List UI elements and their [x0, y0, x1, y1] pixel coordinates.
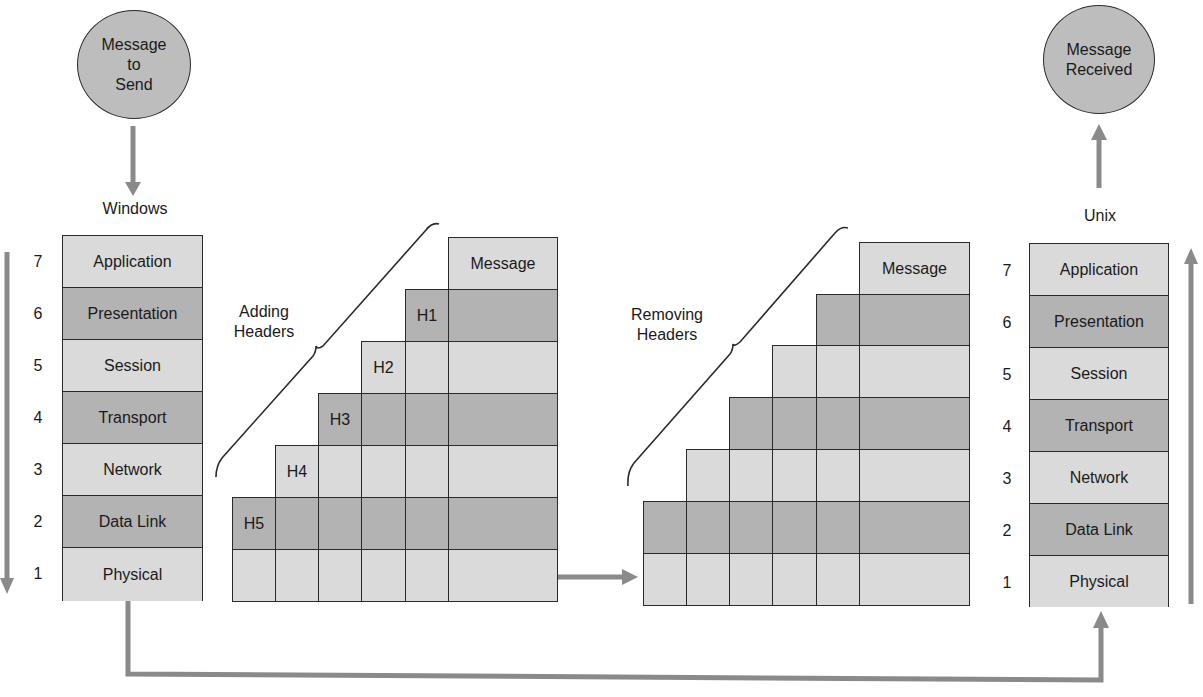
- grid-cell: [772, 397, 817, 450]
- grid-cell: [275, 497, 319, 550]
- adding-headers-label: Adding Headers: [214, 302, 314, 342]
- sender-layer-transport: Transport: [63, 392, 202, 444]
- grid-cell: [405, 497, 449, 550]
- grid-cell: [448, 341, 558, 394]
- sender-os-label: Windows: [80, 200, 190, 218]
- message-block: Message: [448, 237, 558, 290]
- message-received-circle: Message Received: [1043, 5, 1155, 114]
- sender-layer-physical: Physical: [63, 548, 202, 601]
- grid-cell: [772, 501, 817, 554]
- grid-cell: [729, 553, 773, 606]
- layer-number: 3: [997, 470, 1017, 488]
- layer-number: 5: [997, 366, 1017, 384]
- grid-cell: [859, 294, 970, 346]
- grid-cell: [772, 553, 817, 606]
- receiver-layer-session: Session: [1030, 348, 1168, 400]
- grid-cell: [405, 549, 449, 602]
- grid-cell: [232, 549, 276, 602]
- receiver-layer-application: Application: [1030, 244, 1168, 296]
- grid-cell: [448, 497, 558, 550]
- grid-cell: [275, 549, 319, 602]
- grid-cell: [318, 549, 362, 602]
- grid-cell: [816, 397, 860, 450]
- down-arrow-icon: [125, 126, 141, 196]
- grid-cell: [816, 345, 860, 398]
- grid-cell: [729, 449, 773, 502]
- grid-cell: [405, 341, 449, 394]
- header-h2: H2: [361, 341, 406, 394]
- layer-number: 3: [28, 461, 48, 479]
- grid-cell: [448, 393, 558, 446]
- grid-cell: [361, 393, 406, 446]
- layer-number: 7: [997, 262, 1017, 280]
- physical-link-arrow-icon: [128, 601, 1109, 680]
- layer-number: 5: [28, 357, 48, 375]
- grid-cell: [643, 553, 687, 606]
- grid-cell: [318, 497, 362, 550]
- layer-number: 6: [28, 305, 48, 323]
- grid-cell: [729, 397, 773, 450]
- grid-cell: [448, 549, 558, 602]
- grid-cell: [816, 553, 860, 606]
- sender-layer-session: Session: [63, 340, 202, 392]
- header-h3: H3: [318, 393, 362, 446]
- receiver-layer-presentation: Presentation: [1030, 296, 1168, 348]
- layer-number: 2: [28, 513, 48, 531]
- sender-layer-network: Network: [63, 444, 202, 496]
- header-h1: H1: [405, 289, 449, 342]
- grid-cell: [816, 294, 860, 346]
- layer-number: 1: [997, 574, 1017, 592]
- grid-cell: [405, 393, 449, 446]
- grid-cell: [859, 449, 970, 502]
- grid-cell: [686, 553, 730, 606]
- layer-number: 6: [997, 314, 1017, 332]
- grid-cell: [816, 501, 860, 554]
- grid-cell: [405, 445, 449, 498]
- layer-number: 4: [28, 409, 48, 427]
- grid-cell: [772, 449, 817, 502]
- sender-osi-stack: Application Presentation Session Transpo…: [62, 235, 203, 601]
- grid-cell: [859, 397, 970, 450]
- up-arrow-icon: [1091, 124, 1107, 188]
- grid-cell: [859, 553, 970, 606]
- grid-cell: [859, 501, 970, 554]
- receiver-os-label: Unix: [1050, 207, 1150, 225]
- grid-cell: [686, 449, 730, 502]
- removing-headers-label: Removing Headers: [612, 305, 722, 345]
- receiver-layer-data-link: Data Link: [1030, 504, 1168, 556]
- layer-number: 1: [28, 565, 48, 583]
- sender-layer-presentation: Presentation: [63, 288, 202, 340]
- decapsulation-up-arrow-icon: [1184, 248, 1198, 604]
- grid-cell: [643, 501, 687, 554]
- header-h5: H5: [232, 497, 276, 550]
- grid-cell: [816, 449, 860, 502]
- message-to-send-circle: Message to Send: [77, 10, 191, 119]
- grid-cell: [361, 497, 406, 550]
- grid-cell: [686, 501, 730, 554]
- grid-cell: [361, 445, 406, 498]
- grid-cell: [361, 549, 406, 602]
- receiver-layer-physical: Physical: [1030, 556, 1168, 607]
- sender-layer-application: Application: [63, 236, 202, 288]
- layer-number: 2: [997, 522, 1017, 540]
- right-arrow-icon: [558, 569, 638, 585]
- layer-number: 4: [997, 418, 1017, 436]
- grid-cell: [772, 345, 817, 398]
- layer-number: 7: [28, 253, 48, 271]
- grid-cell: [448, 289, 558, 342]
- sender-layer-data-link: Data Link: [63, 496, 202, 548]
- grid-cell: [318, 445, 362, 498]
- receiver-osi-stack: Application Presentation Session Transpo…: [1029, 243, 1169, 607]
- receiver-layer-network: Network: [1030, 452, 1168, 504]
- header-h4: H4: [275, 445, 319, 498]
- encapsulation-down-arrow-icon: [0, 252, 14, 594]
- grid-cell: [448, 445, 558, 498]
- grid-cell: [859, 345, 970, 398]
- message-block: Message: [859, 242, 970, 295]
- grid-cell: [729, 501, 773, 554]
- receiver-layer-transport: Transport: [1030, 400, 1168, 452]
